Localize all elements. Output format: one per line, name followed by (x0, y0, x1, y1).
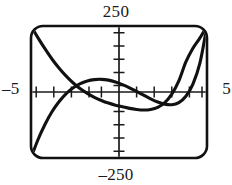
graph-canvas (0, 0, 232, 185)
x-min-label: –5 (2, 80, 20, 97)
y-max-label: 250 (0, 3, 232, 20)
x-max-label: 5 (222, 80, 231, 97)
y-min-label: –250 (0, 166, 232, 183)
graphing-window: 250 –250 –5 5 (0, 0, 232, 185)
